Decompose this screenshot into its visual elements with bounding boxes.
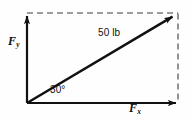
x-component-label-subscript: x bbox=[137, 107, 141, 116]
x-component-label: Fx bbox=[129, 102, 141, 114]
y-component-label-subscript: y bbox=[16, 40, 19, 49]
x-component-label-base: F bbox=[129, 101, 137, 115]
force-vector-diagram: Fy Fx 50 lb 30° bbox=[0, 0, 194, 121]
angle-label: 30° bbox=[50, 85, 65, 95]
resultant-magnitude-label: 50 lb bbox=[98, 28, 120, 38]
y-component-label: Fy bbox=[8, 35, 19, 47]
vector-diagram-canvas bbox=[0, 0, 194, 121]
y-component-label-base: F bbox=[8, 34, 16, 48]
